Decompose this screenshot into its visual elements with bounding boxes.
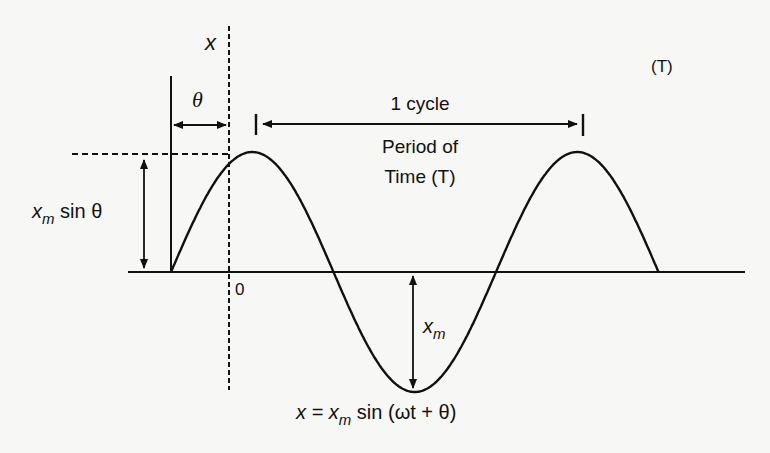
phase-label: θ — [192, 87, 203, 112]
origin-label: 0 — [235, 280, 244, 299]
equation-rest: sin (ωt + θ) — [351, 401, 456, 423]
period-label-line1: Period of — [382, 136, 459, 157]
cycle-label: 1 cycle — [390, 93, 449, 114]
initial-value-sub: m — [42, 210, 55, 227]
corner-label: (T) — [651, 57, 673, 76]
amplitude-sub: m — [433, 325, 446, 342]
equation-label: x = xm sin (ωt + θ) — [295, 401, 456, 428]
initial-value-label: xm sin θ — [31, 200, 102, 227]
initial-value-rest: sin θ — [55, 200, 103, 222]
sine-wave-diagram: x θ 0 (T) 1 cycle Period of Time (T) xm … — [0, 0, 770, 453]
amplitude-label: xm — [422, 315, 446, 342]
equation-lhs: x = — [295, 401, 329, 423]
period-label-line2: Time (T) — [384, 166, 455, 187]
equation-sub: m — [339, 411, 352, 428]
x-axis-label: x — [204, 30, 217, 55]
